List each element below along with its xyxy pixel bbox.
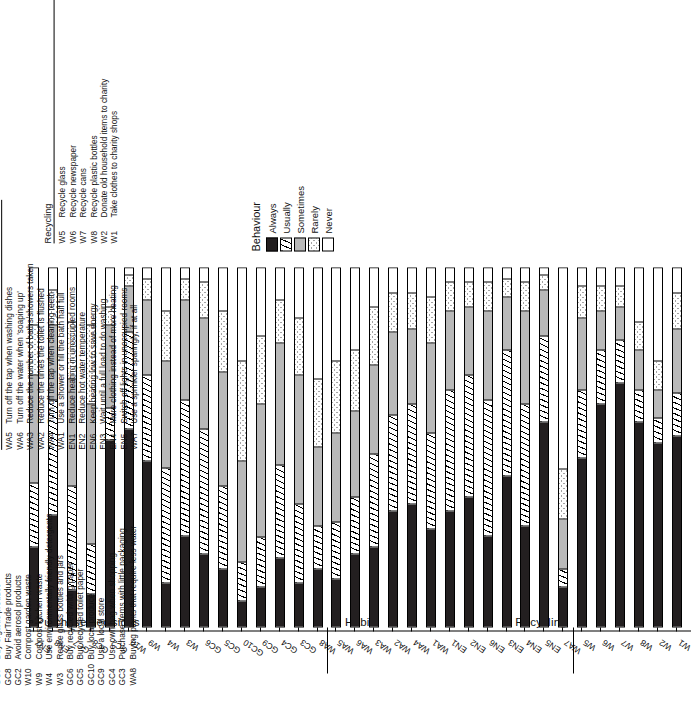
segment-rarely — [503, 279, 511, 297]
bar-WA2 — [388, 267, 398, 627]
bar-GC6 — [199, 267, 209, 627]
segment-sometimes — [654, 390, 662, 419]
key-entry-code: EN3 — [98, 424, 108, 450]
segment-always — [521, 526, 529, 626]
segment-sometimes — [332, 433, 340, 523]
key-list-recycling: RecyclingW5Recycle glassW6Recycle newspa… — [43, 0, 120, 243]
legend-label: Never — [323, 208, 334, 233]
segment-sometimes — [559, 519, 567, 569]
key-entry-text: Compost kitchen waste — [33, 574, 43, 660]
segment-rarely — [578, 286, 586, 318]
key-entry-text: Reduce the number of baths/showers taken — [25, 263, 35, 424]
segment-never — [578, 268, 586, 286]
key-entry-text: Use environmentally friendly detergents — [44, 514, 54, 660]
segment-always — [295, 583, 303, 626]
key-entry: GC9Use a local store — [96, 435, 106, 685]
key-entry-code: W8 — [88, 217, 98, 243]
segment-sometimes — [408, 329, 416, 404]
legend-title: Behaviour — [250, 185, 262, 251]
key-entry-code: GC9 — [96, 659, 106, 685]
category-label-GC10: GC10 — [241, 637, 265, 658]
segment-never — [143, 268, 151, 279]
category-label-W8: W8 — [638, 637, 654, 653]
segment-always — [597, 404, 605, 626]
key-entry-code: WA7 — [129, 424, 139, 450]
key-entry: WA6Turn off the water when 'soaping up' — [15, 200, 25, 450]
segment-never — [559, 268, 567, 468]
segment-never — [219, 268, 227, 311]
segment-rarely — [370, 307, 378, 364]
category-label-GC3: GC3 — [298, 637, 318, 655]
key-entry-code: GC3 — [117, 659, 127, 685]
key-entry: GC4Use own bag when shopping — [106, 435, 116, 685]
segment-usually — [559, 569, 567, 587]
key-entry-text: Reduce hot water temperature — [77, 312, 87, 424]
segment-usually — [446, 390, 454, 512]
legend-swatch-rarely — [308, 237, 320, 251]
segment-rarely — [389, 293, 397, 332]
bar-EN5 — [539, 267, 549, 627]
segment-always — [276, 558, 284, 626]
segment-usually — [578, 390, 586, 458]
key-entry: EN5Switch off lights in unoccupied rooms — [119, 200, 129, 450]
segment-usually — [673, 393, 681, 436]
key-entry-text: Purchase items with little packaging — [117, 528, 127, 659]
segment-rarely — [181, 279, 189, 300]
key-entry: W5Recycle glass — [57, 0, 67, 243]
segment-always — [446, 511, 454, 626]
bar-WA8 — [313, 267, 323, 627]
legend-swatch-sometimes — [294, 237, 306, 251]
key-entry-text: Buy recycled writing paper — [65, 562, 75, 659]
key-list-heading: Recycling — [43, 0, 53, 243]
segment-sometimes — [635, 350, 643, 389]
segment-never — [654, 268, 662, 361]
category-label-GC5: GC5 — [222, 637, 242, 655]
segment-sometimes — [389, 332, 397, 414]
segment-rarely — [238, 361, 246, 461]
key-entry-code: EN4 — [109, 424, 119, 450]
segment-rarely — [521, 282, 529, 311]
key-entry-code: W6 — [67, 217, 77, 243]
key-entry-code: WA5 — [5, 424, 15, 450]
segment-rarely — [484, 282, 492, 311]
key-entry-text: Reduce heating in unoccupied rooms — [67, 287, 77, 424]
bar-W4 — [161, 267, 171, 627]
segment-rarely — [314, 379, 322, 447]
key-entry-code: GC5 — [75, 659, 85, 685]
segment-sometimes — [503, 297, 511, 351]
category-label-GC6: GC6 — [203, 637, 223, 655]
segment-always — [370, 547, 378, 626]
legend-swatch-always — [266, 237, 278, 251]
bar-WA5 — [331, 267, 341, 627]
segment-usually — [540, 336, 548, 422]
segment-never — [351, 268, 359, 350]
segment-sometimes — [351, 411, 359, 497]
segment-never — [427, 268, 435, 297]
key-entry-text: Turn off the tap when washing dishes — [5, 287, 15, 424]
key-entry-text: Turn off the tap when cleaning teeth — [46, 292, 56, 424]
segment-usually — [257, 537, 265, 587]
segment-always — [389, 511, 397, 626]
key-entry-code: W3 — [54, 659, 64, 685]
key-entry-code: WA8 — [127, 659, 137, 685]
key-entry-text: Reuse glass bottles and jars — [54, 555, 64, 659]
category-label-WA5: WA5 — [336, 637, 357, 656]
key-list-purchase-decisions: Purchase decisionsEN7Use high efficiency… — [0, 435, 137, 685]
key-entry-text: More clothing instead of more heating — [109, 285, 119, 424]
segment-never — [276, 268, 284, 300]
segment-never — [200, 268, 208, 282]
segment-never — [314, 268, 322, 379]
category-label-EN6: EN6 — [487, 637, 506, 655]
key-entry-code: W5 — [57, 217, 67, 243]
key-entry: W8Recycle plastic bottles — [88, 0, 98, 243]
category-label-WA4: WA4 — [411, 637, 432, 656]
segment-usually — [238, 562, 246, 601]
segment-sometimes — [540, 290, 548, 337]
segment-always — [238, 601, 246, 626]
segment-sometimes — [219, 372, 227, 487]
key-entry: GC8Buy FairTrade products — [2, 435, 12, 685]
segment-never — [389, 268, 397, 293]
segment-always — [503, 476, 511, 626]
segment-always — [540, 422, 548, 626]
key-entry-code: W1 — [109, 217, 119, 243]
